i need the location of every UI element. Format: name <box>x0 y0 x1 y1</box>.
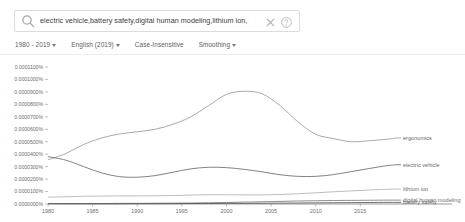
case-sensitivity-toggle[interactable]: Case-Insensitive <box>135 41 184 48</box>
legend-label[interactable]: electric vehicle <box>403 162 440 168</box>
x-axis-tick-label: 1990 <box>131 208 143 214</box>
smoothing-selector[interactable]: Smoothing <box>199 41 236 48</box>
y-axis-tick-label: 0.0000800% <box>14 101 43 107</box>
ngram-chart: 0.0001100%0.0001000%0.0000900%0.0000800%… <box>0 56 465 222</box>
y-axis-tick-label: 0.0000500% <box>14 139 43 145</box>
y-axis-tick-label: 0.0000400% <box>14 151 43 157</box>
corpus-label: English (2019) <box>71 41 114 48</box>
legend-label[interactable]: battery safety <box>403 199 437 205</box>
year-range-label: 1980 - 2019 <box>15 41 50 48</box>
series-line[interactable] <box>48 91 396 160</box>
series-line[interactable] <box>48 157 396 178</box>
x-axis-tick-label: 2000 <box>220 208 232 214</box>
legend-label[interactable]: ergonomics <box>403 135 432 141</box>
header-divider <box>0 54 465 55</box>
chevron-down-icon <box>116 44 120 47</box>
smoothing-label: Smoothing <box>199 41 230 48</box>
chevron-down-icon <box>52 44 56 47</box>
y-axis-tick-label: 0.0000100% <box>14 188 43 194</box>
x-axis-tick-label: 2005 <box>265 208 277 214</box>
chart-canvas[interactable]: 0.0001100%0.0001000%0.0000900%0.0000800%… <box>0 56 465 222</box>
y-axis-tick-label: 0.0000000% <box>14 201 43 207</box>
corpus-selector[interactable]: English (2019) <box>71 41 120 48</box>
y-axis-tick-label: 0.0000600% <box>14 126 43 132</box>
series-line[interactable] <box>48 189 396 197</box>
search-icon <box>20 13 36 29</box>
help-circle-icon[interactable] <box>280 15 293 28</box>
x-axis-tick-label: 1995 <box>176 208 188 214</box>
chart-controls: 1980 - 2019 English (2019) Case-Insensit… <box>15 38 236 50</box>
y-axis-tick-label: 0.0000900% <box>14 89 43 95</box>
chevron-down-icon <box>232 44 236 47</box>
case-sensitivity-label: Case-Insensitive <box>135 41 184 48</box>
legend-label[interactable]: lithium ion <box>403 186 428 192</box>
y-axis-tick-label: 0.0000200% <box>14 176 43 182</box>
close-icon[interactable] <box>264 15 277 28</box>
search-input[interactable] <box>40 12 264 30</box>
year-range-selector[interactable]: 1980 - 2019 <box>15 41 56 48</box>
x-axis-tick-label: 1985 <box>87 208 99 214</box>
y-axis-tick-label: 0.0001000% <box>14 76 43 82</box>
x-axis-tick-label: 1980 <box>42 208 54 214</box>
y-axis-tick-label: 0.0000300% <box>14 164 43 170</box>
search-bar[interactable] <box>14 10 300 32</box>
ngram-viewer-app: 1980 - 2019 English (2019) Case-Insensit… <box>0 0 465 222</box>
y-axis-tick-label: 0.0000700% <box>14 114 43 120</box>
x-axis-tick-label: 2010 <box>310 208 322 214</box>
x-axis-tick-label: 2015 <box>354 208 366 214</box>
y-axis-tick-label: 0.0001100% <box>15 64 44 70</box>
